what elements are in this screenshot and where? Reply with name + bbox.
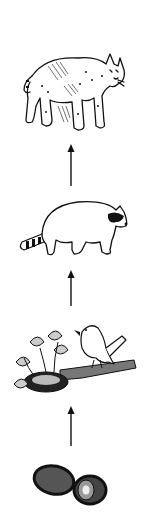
raccoon-node — [16, 196, 128, 258]
arrow-up-icon — [66, 406, 76, 448]
arrow-fruit-to-bird — [66, 406, 76, 448]
arrow-up-icon — [66, 270, 76, 308]
bird-icon — [10, 318, 138, 400]
bobcat-icon — [18, 36, 126, 136]
raccoon-icon — [16, 196, 128, 258]
bobcat-node — [18, 36, 126, 136]
arrow-up-icon — [66, 144, 76, 188]
arrow-bird-to-raccoon — [66, 270, 76, 308]
bird-node — [10, 318, 138, 400]
fruit-icon — [30, 462, 110, 506]
arrow-raccoon-to-bobcat — [66, 144, 76, 188]
fruit-node — [30, 462, 110, 506]
